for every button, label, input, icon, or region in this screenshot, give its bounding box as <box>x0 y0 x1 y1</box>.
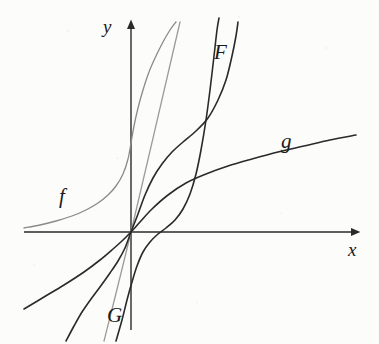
curve-f <box>24 22 176 228</box>
curve-tangent-line <box>104 22 180 341</box>
curve-label-F-capital: F <box>214 42 227 63</box>
curve-label-f: f <box>59 186 65 207</box>
plot-canvas <box>0 0 379 344</box>
y-axis-label: y <box>103 17 111 36</box>
curves-group <box>24 18 356 341</box>
curve-label-g: g <box>281 131 292 152</box>
curve-label-G-capital: G <box>107 305 122 326</box>
graph-figure: y x f F g G <box>0 0 379 344</box>
axes-group <box>24 28 352 330</box>
x-axis-label: x <box>348 240 356 259</box>
curve-g <box>24 135 356 309</box>
